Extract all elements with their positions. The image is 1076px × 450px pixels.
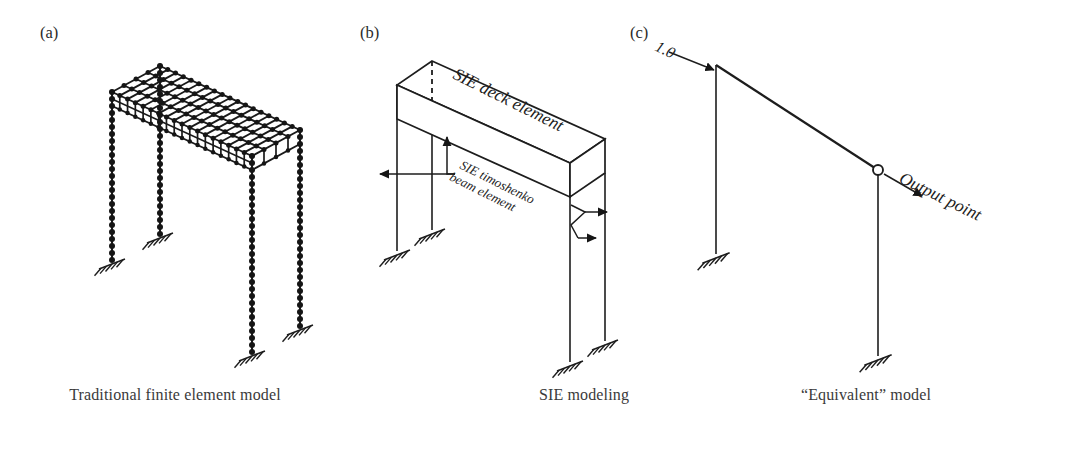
- panel-b-sie-modeling: (b) SIE deck element SIE timoshenko beam…: [360, 23, 629, 404]
- panel-a-traditional-fe-model: (a) Traditional finite element model: [40, 23, 313, 403]
- output-point-marker: [873, 165, 883, 175]
- sie-support-1: [380, 250, 411, 267]
- panel-a-label: (a): [40, 23, 58, 42]
- sie-support-3: [553, 361, 584, 378]
- unit-load-label: 1.0: [653, 37, 678, 61]
- panel-b-label: (b): [360, 23, 379, 42]
- panel-b-caption: SIE modeling: [539, 386, 629, 404]
- unit-load-arrow: [669, 52, 714, 70]
- equivalent-support-2: [860, 355, 892, 373]
- sie-beam-leader-right: [571, 205, 607, 238]
- sie-fixed-supports: [380, 229, 619, 378]
- sie-support-4: [588, 340, 619, 357]
- sie-support-2: [415, 229, 446, 246]
- equivalent-support-1: [698, 253, 730, 271]
- three-panel-bridge-model-figure: (a) Traditional finite element model (b)…: [0, 0, 1076, 450]
- panel-c-equivalent-model: (c) 1.0 Output point “Equivalent” model: [630, 23, 986, 404]
- fe-columns: [109, 63, 303, 355]
- panel-c-label: (c): [630, 23, 648, 42]
- fe-fixed-supports: [95, 233, 314, 368]
- panel-a-caption: Traditional finite element model: [69, 386, 281, 403]
- equivalent-columns: [716, 65, 878, 356]
- sie-beam-leader-left: [380, 137, 455, 174]
- fe-mesh-deck: [110, 64, 303, 173]
- equivalent-beam: [716, 65, 878, 170]
- equivalent-fixed-supports: [698, 253, 892, 373]
- output-point-label: Output point: [896, 168, 986, 225]
- panel-c-caption: “Equivalent” model: [801, 386, 932, 404]
